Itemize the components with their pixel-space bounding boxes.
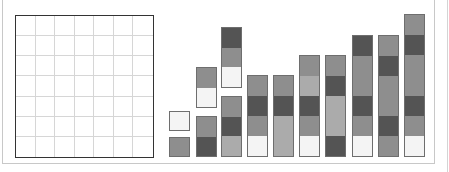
- grid-cell: [55, 56, 75, 76]
- grid-cell: [16, 16, 36, 36]
- block-segment-white: [197, 88, 216, 107]
- column-4-block-1: [247, 75, 268, 157]
- block-segment-dark: [379, 56, 398, 76]
- grid-cell: [133, 137, 153, 157]
- grid-cell: [55, 76, 75, 96]
- grid-cell: [36, 36, 56, 56]
- grid-cell: [36, 76, 56, 96]
- grid-cell: [75, 97, 95, 117]
- grid-cell: [75, 36, 95, 56]
- block-segment-white: [170, 112, 189, 130]
- grid-cell: [94, 56, 114, 76]
- grid-cell: [36, 137, 56, 157]
- block-segment-dark: [405, 35, 424, 55]
- block-segment-grey: [248, 116, 267, 136]
- grid-cell: [16, 117, 36, 137]
- block-segment-grey: [353, 76, 372, 96]
- block-segment-grey: [274, 76, 293, 96]
- grid-cell: [133, 36, 153, 56]
- block-segment-light: [300, 76, 319, 96]
- block-segment-dark: [405, 96, 424, 116]
- block-segment-grey: [405, 116, 424, 136]
- grid-cell: [75, 16, 95, 36]
- column-1-block-1: [169, 137, 190, 157]
- grid-cell: [55, 16, 75, 36]
- grid-cell: [36, 117, 56, 137]
- block-segment-grey: [379, 96, 398, 116]
- grid-cell: [16, 36, 36, 56]
- column-6-block-1: [299, 55, 320, 157]
- grid-cell: [114, 76, 134, 96]
- block-segment-dark: [248, 96, 267, 116]
- grid-cell: [75, 76, 95, 96]
- column-7-block-1: [325, 55, 346, 157]
- block-segment-grey: [300, 56, 319, 76]
- block-segment-light: [222, 136, 241, 156]
- block-segment-white: [405, 136, 424, 156]
- grid-cell: [36, 16, 56, 36]
- column-8-block-1: [352, 35, 373, 157]
- grid-cell: [133, 117, 153, 137]
- grid-cell: [133, 76, 153, 96]
- grid-cell: [114, 16, 134, 36]
- grid-cell: [75, 117, 95, 137]
- grid-cell: [55, 36, 75, 56]
- block-segment-grey: [353, 56, 372, 76]
- grid-cell: [114, 117, 134, 137]
- block-segment-grey: [379, 136, 398, 156]
- block-segment-grey: [379, 76, 398, 96]
- grid-cell: [114, 56, 134, 76]
- block-segment-light: [274, 116, 293, 136]
- grid-cell: [75, 56, 95, 76]
- column-5-block-1: [273, 75, 294, 157]
- block-segment-white: [248, 136, 267, 156]
- block-segment-grey: [353, 116, 372, 136]
- grid-cell: [114, 137, 134, 157]
- grid-cell: [94, 97, 114, 117]
- block-segment-dark: [326, 76, 345, 96]
- block-segment-dark: [326, 136, 345, 156]
- block-segment-light: [274, 136, 293, 156]
- grid-cell: [55, 97, 75, 117]
- column-3-block-2: [221, 27, 242, 88]
- block-segment-white: [300, 136, 319, 156]
- column-2-block-1: [196, 116, 217, 157]
- block-segment-dark: [222, 28, 241, 48]
- column-9-block-1: [378, 35, 399, 157]
- grid-cell: [114, 97, 134, 117]
- block-segment-grey: [170, 138, 189, 156]
- grid-cell: [114, 36, 134, 56]
- block-segment-grey: [326, 56, 345, 76]
- block-segment-grey: [197, 117, 216, 136]
- grid-cell: [16, 137, 36, 157]
- block-segment-grey: [405, 55, 424, 75]
- grid-cell: [94, 16, 114, 36]
- column-10-block-1: [404, 14, 425, 157]
- block-segment-grey: [300, 116, 319, 136]
- block-segment-white: [222, 67, 241, 87]
- page-edge-divider: [447, 0, 448, 172]
- grid-cell: [75, 137, 95, 157]
- grid-cell: [16, 56, 36, 76]
- column-1-block-2: [169, 111, 190, 131]
- grid-cell: [36, 56, 56, 76]
- block-segment-dark: [379, 116, 398, 136]
- block-segment-dark: [274, 96, 293, 116]
- block-segment-dark: [353, 36, 372, 56]
- grid-cell: [16, 76, 36, 96]
- grid-cell: [94, 117, 114, 137]
- block-segment-light: [326, 96, 345, 116]
- block-segment-dark: [353, 96, 372, 116]
- grid-cell: [133, 16, 153, 36]
- grid-cell: [16, 97, 36, 117]
- block-segment-light: [326, 116, 345, 136]
- block-segment-dark: [222, 117, 241, 137]
- block-segment-grey: [197, 68, 216, 87]
- block-segment-dark: [197, 137, 216, 156]
- block-segment-grey: [222, 97, 241, 117]
- block-segment-dark: [300, 96, 319, 116]
- grid-cell: [55, 117, 75, 137]
- block-segment-grey: [405, 15, 424, 35]
- grid-cell: [133, 97, 153, 117]
- block-segment-grey: [379, 36, 398, 56]
